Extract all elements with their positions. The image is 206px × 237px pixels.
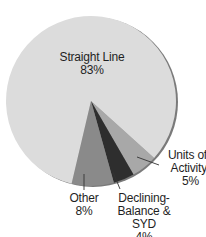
label-declining-balance: Declining- Balance & SYD 4% <box>104 192 184 237</box>
label-other-value: 8% <box>64 205 104 218</box>
label-straight-line: Straight Line 83% <box>52 51 132 77</box>
label-straight-line-value: 83% <box>52 64 132 77</box>
label-other: Other 8% <box>64 192 104 218</box>
label-units-value: 5% <box>157 175 206 188</box>
label-units-of-activity: Units of Activity 5% <box>157 149 206 188</box>
label-declining-value: 4% <box>104 231 184 237</box>
label-declining-line2: Balance & SYD <box>104 205 184 231</box>
pie-slices <box>6 16 178 187</box>
